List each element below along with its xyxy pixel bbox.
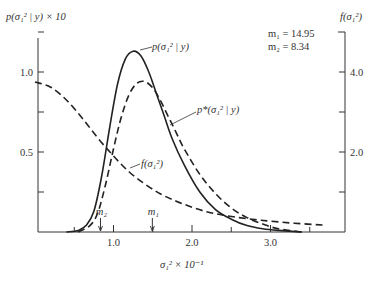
- m1-marker-label: m₁: [148, 206, 159, 217]
- y-left-tick-label: 1.0: [20, 67, 33, 78]
- m2-marker-label: m₂: [96, 206, 108, 217]
- x-axis-title: σ₁² × 10⁻¹: [160, 259, 204, 270]
- series-f-prior: [35, 82, 325, 225]
- x-tick-label: 3.0: [264, 237, 277, 248]
- m-markers: m₁m₂: [96, 206, 159, 231]
- y-right-tick-label: 4.0: [350, 67, 363, 78]
- curve-label-p-star: p*(σ₁² | y): [196, 104, 240, 116]
- x-tick-label: 2.0: [185, 237, 198, 248]
- x-tick-label: 1.0: [107, 237, 120, 248]
- curve-label-f: f(σ₁²): [141, 158, 163, 170]
- y-left-axis-title: p(σ₁² | y) × 10: [5, 11, 67, 23]
- series-p-star-posterior: [78, 81, 302, 232]
- y-right-axis-title: f(σ₁²): [340, 11, 362, 23]
- y-left-tick-label: 0.5: [20, 147, 33, 158]
- m2-value-label: m₂ = 8.34: [268, 41, 310, 52]
- y-right-tick-label: 2.0: [350, 147, 363, 158]
- curve-label-p: p(σ₁² | y): [151, 41, 190, 53]
- chart-svg: 1.02.03.00.51.02.04.0 p(σ₁² | y) × 10 f(…: [0, 0, 378, 284]
- m1-value-label: m₁ = 14.95: [268, 28, 315, 39]
- ticks: [38, 72, 345, 232]
- posterior-density-chart: 1.02.03.00.51.02.04.0 p(σ₁² | y) × 10 f(…: [0, 0, 378, 284]
- tick-labels: 1.02.03.00.51.02.04.0: [20, 67, 363, 248]
